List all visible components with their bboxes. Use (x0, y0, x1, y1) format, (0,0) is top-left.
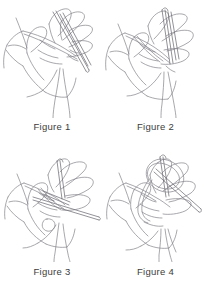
figure-2-illustration (104, 0, 207, 118)
figure-3-caption: Figure 3 (34, 267, 71, 277)
figure-panel-2: Figure 2 (104, 0, 207, 145)
figure-3-illustration (0, 145, 104, 262)
figure-1-caption: Figure 1 (34, 122, 71, 132)
figure-panel-4: Figure 4 (104, 145, 207, 289)
figure-4-caption: Figure 4 (137, 267, 174, 277)
figure-panel-1: Figure 1 (0, 0, 104, 145)
figure-1-illustration (0, 0, 104, 118)
figure-2-caption: Figure 2 (137, 122, 174, 132)
figure-4-illustration (104, 145, 207, 262)
figure-panel-3: Figure 3 (0, 145, 104, 289)
figure-grid: Figure 1 (0, 0, 207, 289)
